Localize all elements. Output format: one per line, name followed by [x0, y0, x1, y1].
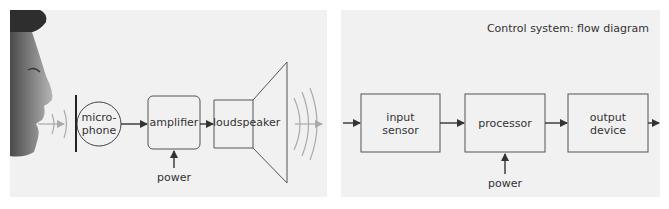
audio-diagram-graphics — [10, 10, 327, 197]
amplifier-label: amplifier — [148, 116, 200, 129]
power-label-right: power — [481, 177, 529, 190]
microphone-label: micro- phone — [78, 111, 120, 137]
power-label-left: power — [150, 171, 198, 184]
loudspeaker-label: loudspeaker — [213, 116, 255, 129]
audio-system-diagram: micro- phone amplifier loudspeaker power — [10, 10, 327, 197]
processor-label: processor — [465, 117, 545, 130]
output-device-label-line1: output — [568, 111, 648, 124]
input-sensor-label-line2: sensor — [361, 124, 440, 137]
output-device-label-line2: device — [568, 124, 648, 137]
sound-wave-out-icon — [294, 88, 322, 160]
control-system-diagram: Control system: flow diagram input senso… — [341, 10, 660, 197]
face-icon — [10, 10, 52, 157]
microphone-label-line1: micro- — [78, 111, 120, 124]
input-sensor-label-line1: input — [361, 111, 440, 124]
output-device-label: output device — [568, 111, 648, 137]
control-diagram-graphics — [341, 10, 660, 197]
microphone-label-line2: phone — [78, 124, 120, 137]
input-sensor-label: input sensor — [361, 111, 440, 137]
